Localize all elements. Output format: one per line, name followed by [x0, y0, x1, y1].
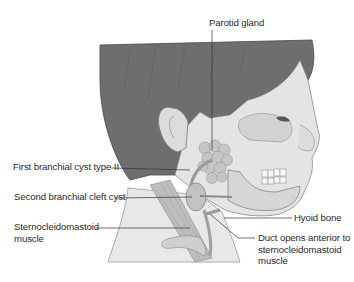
label-sternocleidomastoid-line1: Sternocleidomastoid [14, 221, 99, 233]
label-hyoid-bone: Hyoid bone [294, 212, 342, 224]
label-sternocleidomastoid-line2: muscle [14, 233, 99, 245]
label-duct-line3: muscle [258, 255, 350, 267]
label-parotid-gland: Parotid gland [209, 17, 264, 29]
label-second-branchial-cleft-cyst: Second branchial cleft cyst [14, 191, 125, 203]
branchial-tract [200, 196, 232, 197]
label-duct-line2: sternocleidomastoid [258, 244, 350, 256]
label-duct-line1: Duct opens anterior to [258, 232, 350, 244]
label-duct: Duct opens anterior to sternocleidomasto… [258, 232, 350, 267]
label-sternocleidomastoid-muscle: Sternocleidomastoid muscle [14, 221, 99, 244]
label-first-branchial-cyst: First branchial cyst type II [13, 161, 119, 173]
